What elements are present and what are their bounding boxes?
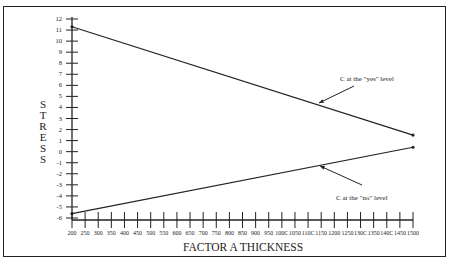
x-tick-label: 650	[186, 230, 195, 236]
x-tick-label: 800	[225, 230, 234, 236]
series-no-line	[72, 147, 413, 213]
y-tick-label: 2	[59, 126, 62, 133]
annotation-no-arrow	[320, 166, 362, 185]
x-tick-label: 110C	[302, 230, 315, 236]
data-point-marker	[70, 212, 73, 215]
y-tick-label: -1	[57, 159, 62, 166]
y-tick-label: 3	[59, 115, 62, 122]
y-tick-label: 5	[59, 92, 62, 99]
y-tick-label: 6	[59, 81, 63, 88]
x-tick-label: 1200	[328, 230, 340, 236]
x-tick-label: 350	[107, 230, 116, 236]
x-tick-label: 600	[172, 230, 181, 236]
y-tick-label: -2	[57, 170, 62, 177]
annotation-yes-arrow	[319, 86, 354, 103]
y-tick-label: 11	[56, 26, 62, 33]
y-tick-label: -4	[57, 192, 63, 199]
y-tick-label: 8	[59, 59, 62, 66]
x-tick-label: 550	[159, 230, 168, 236]
x-tick-label: 500	[146, 230, 155, 236]
data-point-marker	[70, 25, 73, 28]
x-tick-label: 450	[133, 230, 142, 236]
y-axis-label-letter: S	[40, 153, 46, 165]
x-tick-label: 1050	[289, 230, 301, 236]
x-tick-label: 900	[251, 230, 260, 236]
x-tick-label: 130C	[354, 230, 367, 236]
x-tick-label: 1350	[368, 230, 380, 236]
y-tick-label: 10	[56, 37, 63, 44]
x-tick-label: 1500	[407, 230, 419, 236]
x-tick-label: 850	[238, 230, 247, 236]
x-tick-label: 250	[81, 230, 90, 236]
x-tick-label: 400	[120, 230, 129, 236]
y-tick-label: 9	[59, 48, 62, 55]
x-tick-label: 1250	[341, 230, 353, 236]
y-tick-label: 0	[59, 148, 62, 155]
x-tick-label: 750	[212, 230, 221, 236]
x-tick-label: 140C	[380, 230, 393, 236]
y-tick-label: 12	[56, 15, 63, 22]
x-tick-label: 100C	[275, 230, 288, 236]
annotation-yes-label: C at the "yes" level	[340, 75, 394, 83]
x-tick-label: 950	[264, 230, 273, 236]
y-tick-label: -6	[57, 214, 63, 221]
y-tick-label: 7	[59, 70, 63, 77]
x-tick-label: 300	[94, 230, 103, 236]
x-tick-label: 1150	[315, 230, 327, 236]
y-tick-label: -5	[57, 203, 62, 210]
y-tick-label: 1	[59, 137, 62, 144]
y-tick-label: 4	[59, 103, 63, 110]
annotation-no-label: C at the "no" level	[336, 194, 388, 202]
y-tick-label: -3	[57, 181, 62, 188]
x-tick-label: 200	[68, 230, 77, 236]
x-tick-label: 700	[199, 230, 208, 236]
line-chart: 1211109876543210-1-2-3-4-5-6200250300350…	[0, 0, 453, 267]
x-tick-label: 1450	[394, 230, 406, 236]
x-axis-label: FACTOR A THICKNESS	[183, 241, 303, 253]
data-point-marker	[411, 146, 414, 149]
data-point-marker	[411, 133, 414, 136]
